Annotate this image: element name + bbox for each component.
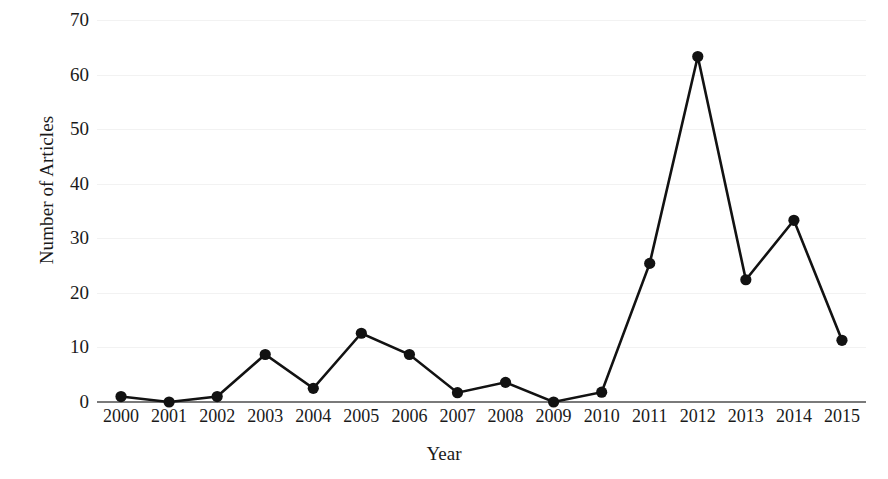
data-point-marker [212, 391, 223, 402]
y-tick-label: 0 [43, 392, 89, 411]
data-point-marker [260, 349, 271, 360]
y-tick-label: 10 [43, 337, 89, 356]
y-tick-label: 60 [43, 65, 89, 84]
data-point-marker [356, 328, 367, 339]
data-point-marker [836, 335, 847, 346]
data-point-marker [308, 383, 319, 394]
y-tick-label: 30 [43, 228, 89, 247]
line-chart: Number of Articles 010203040506070 20002… [0, 0, 888, 479]
x-tick-label: 2015 [814, 404, 870, 428]
y-tick-label: 50 [43, 119, 89, 138]
x-axis-title: Year [0, 443, 888, 465]
plot-area [97, 20, 866, 402]
data-point-marker [692, 51, 703, 62]
data-point-marker [644, 258, 655, 269]
data-point-marker [452, 387, 463, 398]
data-point-marker [404, 349, 415, 360]
data-point-marker [596, 387, 607, 398]
series-polyline [121, 57, 842, 402]
y-tick-label: 70 [43, 10, 89, 29]
series-line [97, 20, 866, 402]
x-axis-tick-labels: 2000200120022003200420052006200720082009… [97, 404, 866, 432]
data-point-marker [788, 215, 799, 226]
y-tick-label: 40 [43, 174, 89, 193]
data-point-marker [115, 391, 126, 402]
data-point-marker [500, 377, 511, 388]
y-axis-tick-labels: 010203040506070 [37, 20, 89, 402]
data-point-marker [740, 274, 751, 285]
y-tick-label: 20 [43, 283, 89, 302]
